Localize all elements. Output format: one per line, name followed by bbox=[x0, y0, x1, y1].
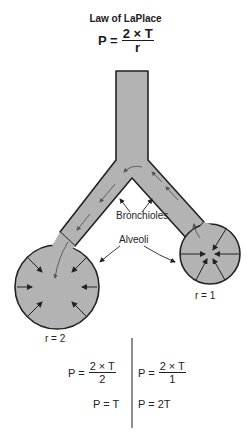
left-radius-label: r = 2 bbox=[45, 333, 65, 344]
bronchioles-label: Bronchioles bbox=[116, 210, 168, 221]
left-equation-2: P = T bbox=[93, 398, 119, 410]
alveoli-label: Alveoli bbox=[119, 234, 148, 245]
right-radius-label: r = 1 bbox=[195, 290, 215, 301]
right-equation-2: P = 2T bbox=[138, 398, 171, 410]
right-equation-1: P = 2 × T 1 bbox=[138, 360, 186, 385]
left-equation-1: P = 2 × T 2 bbox=[68, 360, 116, 385]
